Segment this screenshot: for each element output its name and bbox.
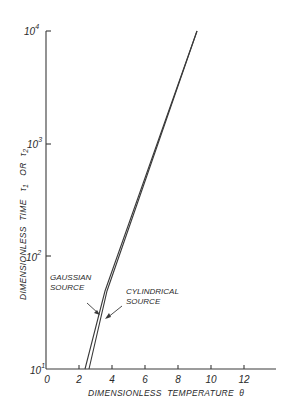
series-gaussian-source [85,31,197,369]
series-cylindrical-source [89,31,197,369]
x-tick-label: 6 [142,374,148,385]
x-tick-label: 0 [44,374,50,385]
y-axis-title: DIMENSIONLESS TIMEτ1ORτ2 [18,149,29,300]
y-tick-label: 102 [26,249,41,263]
svg-text:CYLINDRICAL: CYLINDRICAL [126,287,179,296]
x-tick-label: 8 [175,374,181,385]
x-tick-label: 4 [109,374,115,385]
svg-text:SOURCE: SOURCE [50,283,85,292]
y-tick-label: 103 [27,136,42,150]
svg-text:SOURCE: SOURCE [126,297,161,306]
x-tick-label: 12 [238,374,250,385]
y-tick-label: 101 [30,362,45,376]
series-lines [85,31,197,369]
x-tick-labels: 0 2 4 6 8 10 12 [44,374,250,385]
axes [46,31,276,369]
y-tick-label: 104 [24,23,39,37]
annotation-cylindrical: CYLINDRICAL SOURCE [105,287,179,319]
svg-text:DIMENSIONLESS TIMEτ1ORτ2: DIMENSIONLESS TIMEτ1ORτ2 [18,149,29,300]
x-tick-label: 10 [205,374,217,385]
x-axis-title: DIMENSIONLESS TEMPERATURE θ [88,388,244,398]
x-tick-label: 2 [75,374,82,385]
annotation-gaussian: GAUSSIAN SOURCE [50,273,100,315]
chart: 104 103 102 101 0 2 4 6 8 10 12 DIMENSIO… [0,0,288,410]
svg-text:GAUSSIAN: GAUSSIAN [50,273,92,282]
arrowhead-icon [105,313,111,319]
